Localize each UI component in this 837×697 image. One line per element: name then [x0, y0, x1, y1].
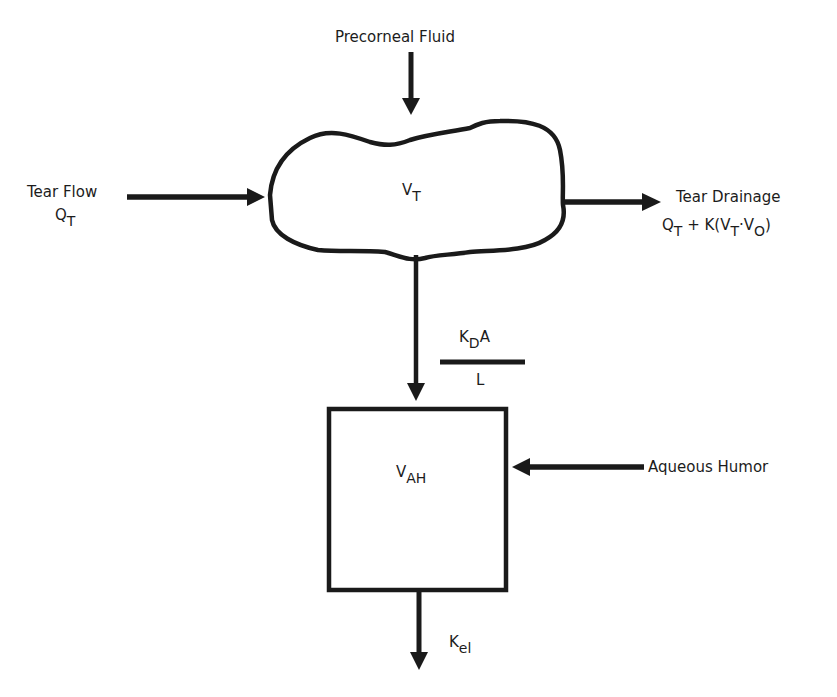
aqueous-volume-symbol: VAH — [396, 465, 426, 480]
transfer-arrow — [407, 255, 425, 401]
transfer-numerator: KDA — [459, 330, 490, 345]
transfer-denominator: L — [476, 373, 484, 388]
tear-drainage-arrow — [563, 193, 661, 211]
aqueous-compartment-shape — [329, 409, 506, 590]
tear-drainage-expression: QT + K(VT·VO) — [662, 218, 771, 233]
tear-flow-arrow — [127, 188, 265, 206]
tear-volume-symbol: VT — [402, 183, 421, 198]
elimination-symbol: Kel — [449, 635, 471, 650]
elimination-arrow — [410, 590, 428, 670]
precorneal-fluid-label: Precorneal Fluid — [335, 30, 455, 45]
aqueous-humor-label: Aqueous Humor — [648, 460, 768, 475]
aqueous-humor-arrow — [512, 458, 644, 476]
tear-flow-label: Tear Flow — [27, 185, 97, 200]
tear-drainage-label: Tear Drainage — [676, 190, 781, 205]
tear-flow-symbol: QT — [55, 208, 75, 223]
precorneal-arrow — [402, 52, 420, 115]
pharmacokinetic-diagram: Precorneal Fluid Tear Flow QT VT Tear Dr… — [0, 0, 837, 697]
